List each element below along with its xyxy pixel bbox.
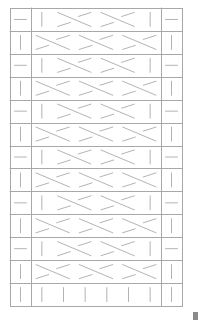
chart-row [21, 81, 172, 95]
chart-row [15, 150, 178, 164]
cable-cross-icon [58, 242, 91, 256]
chart-row [21, 127, 172, 141]
cable-cross-icon [101, 12, 134, 26]
chart-grid [10, 8, 183, 307]
cable-cross-icon [123, 35, 156, 49]
cable-cross-icon [79, 81, 112, 95]
chart-row [15, 104, 178, 118]
cable-cross-icon [36, 81, 69, 95]
cable-cross-icon [36, 219, 69, 233]
chart-row [21, 288, 172, 302]
chart-row [15, 242, 178, 256]
cable-cross-icon [79, 173, 112, 187]
cable-cross-icon [58, 104, 91, 118]
knitting-chart [0, 0, 198, 320]
cable-cross-icon [36, 127, 69, 141]
cable-cross-icon [58, 150, 91, 164]
cable-cross-icon [36, 265, 69, 279]
cable-cross-icon [79, 127, 112, 141]
chart-row [21, 173, 172, 187]
chart-row [15, 12, 178, 26]
cable-cross-icon [101, 196, 134, 210]
cable-cross-icon [123, 127, 156, 141]
cable-cross-icon [101, 242, 134, 256]
cable-cross-icon [101, 104, 134, 118]
cable-cross-icon [58, 58, 91, 72]
chart-row [15, 58, 178, 72]
cable-cross-icon [123, 173, 156, 187]
cable-cross-icon [79, 35, 112, 49]
cable-cross-icon [101, 58, 134, 72]
cable-cross-icon [58, 12, 91, 26]
cable-cross-icon [101, 150, 134, 164]
chart-row [15, 196, 178, 210]
cable-cross-icon [79, 265, 112, 279]
chart-frame [11, 9, 183, 307]
cable-cross-icon [79, 219, 112, 233]
chart-row [21, 219, 172, 233]
cable-cross-icon [36, 35, 69, 49]
cable-cross-icon [58, 196, 91, 210]
chart-row [21, 265, 172, 279]
scrollbar-thumb[interactable] [193, 312, 198, 320]
cable-cross-icon [123, 81, 156, 95]
chart-row [21, 35, 172, 49]
cable-cross-icon [36, 173, 69, 187]
cable-cross-icon [123, 219, 156, 233]
cable-cross-icon [123, 265, 156, 279]
